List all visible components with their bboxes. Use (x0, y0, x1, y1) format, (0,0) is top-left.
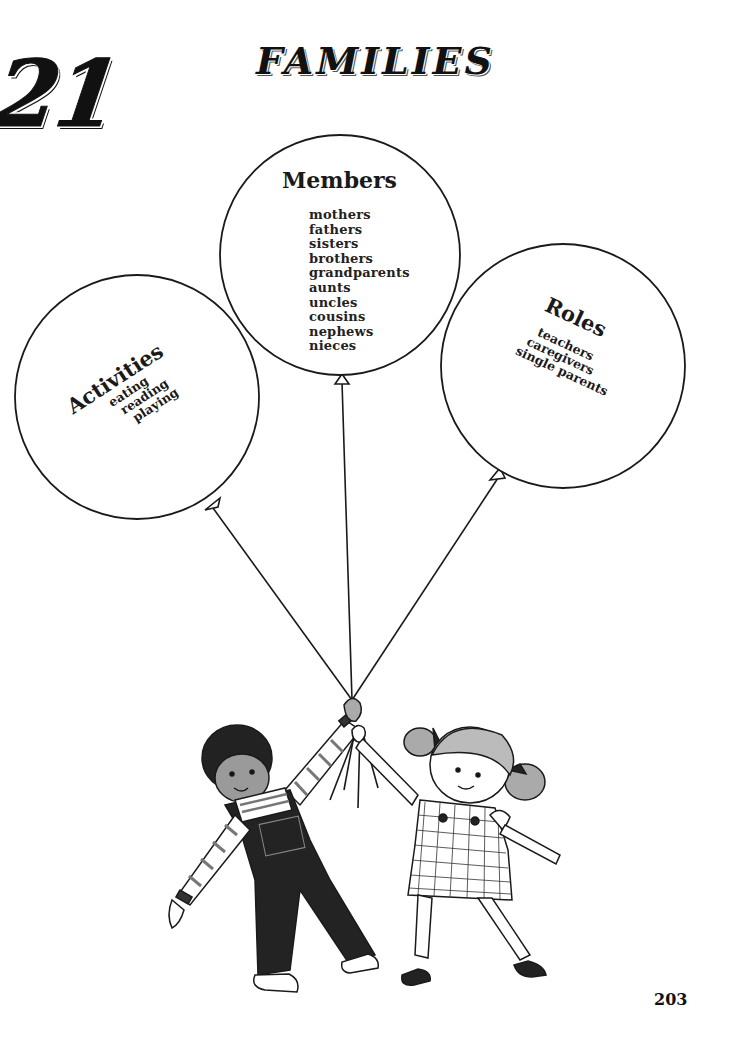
list-item: aunts (309, 281, 410, 296)
list-item: nieces (309, 339, 410, 354)
list-item: fathers (309, 223, 410, 238)
list-item: sisters (309, 237, 410, 252)
list-item: nephews (309, 325, 410, 340)
list-item: brothers (309, 252, 410, 267)
list-item: cousins (309, 310, 410, 325)
girl-figure (352, 725, 560, 985)
members-list: mothers fathers sisters brothers grandpa… (309, 208, 410, 354)
page-number: 203 (654, 990, 687, 1009)
balloon-illustration (0, 0, 732, 1053)
members-heading: Members (282, 167, 397, 193)
list-item: grandparents (309, 266, 410, 281)
boy-figure (169, 698, 378, 992)
list-item: mothers (309, 208, 410, 223)
list-item: uncles (309, 296, 410, 311)
